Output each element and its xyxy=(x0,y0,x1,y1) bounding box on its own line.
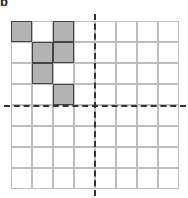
grid-cell xyxy=(53,168,74,189)
grid-cell xyxy=(32,84,53,105)
grid-cell xyxy=(74,168,95,189)
grid-cell xyxy=(158,84,179,105)
grid-cell xyxy=(95,168,116,189)
grid-cell xyxy=(74,63,95,84)
shaded-cell xyxy=(32,63,53,84)
grid-cell xyxy=(158,21,179,42)
shaded-cell xyxy=(53,21,74,42)
grid-cell xyxy=(32,126,53,147)
grid-cell xyxy=(95,84,116,105)
grid-cell xyxy=(95,21,116,42)
shaded-cell xyxy=(53,84,74,105)
grid-cell xyxy=(158,168,179,189)
grid-cell xyxy=(95,63,116,84)
shaded-cell xyxy=(53,42,74,63)
grid-cell xyxy=(137,168,158,189)
grid-cell xyxy=(116,147,137,168)
grid-cell xyxy=(95,147,116,168)
grid-cell xyxy=(158,63,179,84)
grid-cell xyxy=(116,168,137,189)
grid-cell xyxy=(116,21,137,42)
grid-cell xyxy=(116,105,137,126)
grid-cell xyxy=(158,42,179,63)
grid-cell xyxy=(11,84,32,105)
grid-cell xyxy=(74,42,95,63)
grid-cell xyxy=(116,126,137,147)
grid-cell xyxy=(116,42,137,63)
grid-cell xyxy=(95,105,116,126)
grid-cell xyxy=(158,126,179,147)
grid-cell xyxy=(95,126,116,147)
grid-cell xyxy=(116,63,137,84)
grid-cell xyxy=(11,42,32,63)
grid-cell xyxy=(74,84,95,105)
grid-cell xyxy=(137,84,158,105)
grid-cell xyxy=(11,126,32,147)
grid-cell xyxy=(137,105,158,126)
grid-cell xyxy=(74,105,95,126)
horizontal-dashed-axis xyxy=(4,105,186,107)
grid-cell xyxy=(32,147,53,168)
grid-cell xyxy=(74,147,95,168)
grid-cell xyxy=(137,21,158,42)
grid-cell xyxy=(11,147,32,168)
grid-cell xyxy=(158,147,179,168)
grid-cell xyxy=(53,63,74,84)
grid-cell xyxy=(95,42,116,63)
grid-cell xyxy=(74,21,95,42)
grid-cell xyxy=(74,126,95,147)
grid-cell xyxy=(137,147,158,168)
grid-cell xyxy=(137,126,158,147)
shaded-cell xyxy=(11,21,32,42)
grid-cell xyxy=(137,42,158,63)
grid-cell xyxy=(11,63,32,84)
grid-cell xyxy=(11,105,32,126)
grid-cell xyxy=(53,105,74,126)
grid-cell xyxy=(53,126,74,147)
grid-cell xyxy=(32,105,53,126)
grid-cell xyxy=(32,21,53,42)
shaded-cell xyxy=(32,42,53,63)
grid-cell xyxy=(137,63,158,84)
grid-cell xyxy=(11,168,32,189)
figure-label: b xyxy=(0,0,8,9)
grid-cell xyxy=(32,168,53,189)
grid-cell xyxy=(53,147,74,168)
grid-cell xyxy=(116,84,137,105)
grid-cell xyxy=(158,105,179,126)
